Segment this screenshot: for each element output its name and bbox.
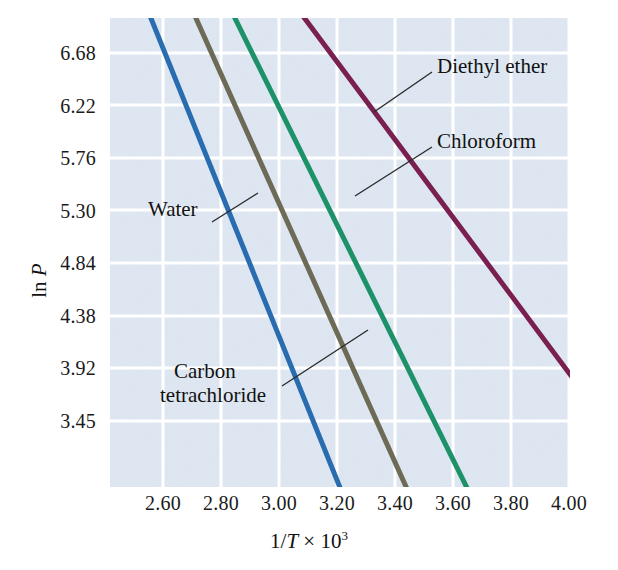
x-axis-title-times: × 10 xyxy=(298,529,341,553)
x-tick-label: 3.20 xyxy=(306,492,368,515)
series-label-water: Water xyxy=(148,198,198,222)
y-tick-label: 5.76 xyxy=(26,147,96,170)
x-tick-label: 3.00 xyxy=(248,492,310,515)
y-tick-label: 3.45 xyxy=(26,410,96,433)
x-tick-label: 4.00 xyxy=(538,492,600,515)
y-axis-title: ln P xyxy=(27,236,52,326)
series-label-carbon-tetrachloride: Carbon tetrachloride xyxy=(160,360,292,407)
chart-canvas xyxy=(0,0,618,570)
x-axis-title: 1/T × 103 xyxy=(0,528,618,554)
y-tick-label: 5.30 xyxy=(26,200,96,223)
vapor-pressure-chart: 6.68 6.22 5.76 5.30 4.84 4.38 3.92 3.45 … xyxy=(0,0,618,570)
x-tick-label: 2.60 xyxy=(132,492,194,515)
x-axis-title-prefix: 1/ xyxy=(270,529,286,553)
series-label-carbon-tetrachloride-line1: Carbon xyxy=(160,360,292,384)
x-tick-label: 3.40 xyxy=(364,492,426,515)
y-tick-label: 6.22 xyxy=(26,95,96,118)
x-tick-label: 3.60 xyxy=(422,492,484,515)
y-axis-title-prefix: ln xyxy=(27,276,51,298)
y-tick-label: 6.68 xyxy=(26,42,96,65)
series-label-carbon-tetrachloride-line2: tetrachloride xyxy=(160,384,292,408)
x-tick-label: 3.80 xyxy=(480,492,542,515)
x-axis-title-variable: T xyxy=(286,529,298,553)
y-axis-title-variable: P xyxy=(27,263,51,276)
series-label-chloroform: Chloroform xyxy=(437,130,536,154)
y-tick-label: 3.92 xyxy=(26,357,96,380)
x-axis-title-exponent: 3 xyxy=(341,528,348,543)
x-tick-label: 2.80 xyxy=(190,492,252,515)
series-label-diethyl-ether: Diethyl ether xyxy=(437,55,547,79)
